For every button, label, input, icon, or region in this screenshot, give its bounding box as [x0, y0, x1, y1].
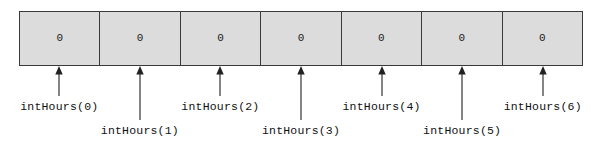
- array-cell: 0: [20, 12, 100, 65]
- up-arrow-icon: [376, 66, 387, 96]
- array-box: 0000000: [19, 11, 583, 66]
- up-arrow-icon: [134, 66, 145, 120]
- array-index-label: intHours(0): [20, 101, 98, 113]
- array-cell-value: 0: [539, 33, 546, 44]
- array-cell-value: 0: [217, 33, 224, 44]
- array-cell: 0: [100, 12, 180, 65]
- array-cell-value: 0: [56, 33, 63, 44]
- array-index-label: intHours(6): [504, 101, 582, 113]
- up-arrow-icon: [537, 66, 548, 96]
- array-index-label: intHours(5): [423, 125, 501, 137]
- array-index-label: intHours(3): [262, 125, 340, 137]
- array-cell-value: 0: [459, 33, 466, 44]
- array-index-diagram: 0000000 intHours(0)intHours(1)intHours(2…: [0, 0, 607, 146]
- array-cell: 0: [261, 12, 341, 65]
- up-arrow-icon: [457, 66, 468, 120]
- array-cell: 0: [503, 12, 582, 65]
- up-arrow-icon: [296, 66, 307, 120]
- up-arrow-icon: [215, 66, 226, 96]
- array-index-label: intHours(2): [181, 101, 259, 113]
- array-cell: 0: [422, 12, 502, 65]
- array-index-label: intHours(1): [101, 125, 179, 137]
- array-cell: 0: [342, 12, 422, 65]
- array-cell-value: 0: [378, 33, 385, 44]
- array-cell: 0: [181, 12, 261, 65]
- array-cell-value: 0: [298, 33, 305, 44]
- up-arrow-icon: [54, 66, 65, 96]
- array-index-label: intHours(4): [343, 101, 421, 113]
- array-cell-value: 0: [137, 33, 144, 44]
